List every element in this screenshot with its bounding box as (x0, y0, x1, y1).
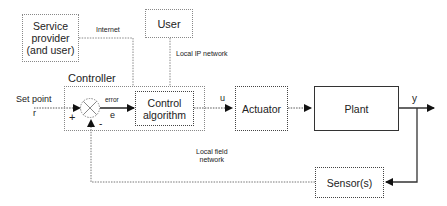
y-label: y (412, 93, 417, 104)
minus-sign: - (99, 118, 102, 129)
user-box: User (145, 9, 193, 38)
plant-label: Plant (345, 103, 369, 115)
error-label: error (105, 96, 119, 103)
internet-label: Internet (96, 26, 120, 34)
actuator-box: Actuator (235, 86, 288, 131)
sensor-label: Sensor(s) (327, 177, 373, 189)
e-label: e (110, 111, 115, 121)
local-ip-network-label: Local IP network (176, 50, 228, 58)
service-provider-box: Service provider (and user) (22, 14, 79, 62)
local-field-network-label: Local field network (196, 148, 228, 163)
local-field-network-line1: Local field (196, 148, 228, 156)
plant-box: Plant (314, 86, 399, 131)
control-algorithm-box: Control algorithm (135, 91, 194, 126)
control-algorithm-line1: Control (148, 97, 182, 109)
set-point-label: Set point (16, 95, 52, 105)
service-provider-line1: Service (33, 20, 68, 32)
controller-label: Controller (68, 72, 116, 84)
user-label: User (157, 18, 180, 30)
sensor-box: Sensor(s) (315, 167, 384, 198)
control-algorithm-line2: algorithm (143, 109, 186, 121)
u-label: u (220, 94, 225, 104)
actuator-label: Actuator (242, 103, 281, 115)
local-field-network-line2: network (196, 156, 228, 164)
plus-sign: + (69, 111, 75, 123)
r-label: r (33, 109, 36, 119)
service-provider-line3: (and user) (27, 44, 75, 56)
service-provider-line2: provider (32, 32, 70, 44)
